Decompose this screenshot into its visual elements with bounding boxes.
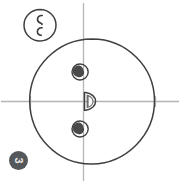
lower-small-circle	[72, 121, 88, 137]
upper-small-circle	[72, 64, 88, 80]
inset-circle	[24, 10, 56, 42]
page-number-badge-label: 3	[13, 157, 24, 163]
comma-mark-lower	[37, 28, 42, 35]
axes-group	[1, 3, 179, 181]
page-number-badge[interactable]: 3	[9, 151, 28, 170]
figure-canvas: 3	[0, 0, 180, 186]
comma-mark-upper	[38, 15, 43, 24]
